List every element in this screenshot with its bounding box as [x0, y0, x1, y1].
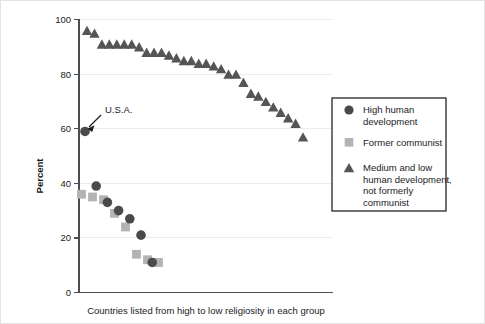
y-tick-label-80: 80 [60, 69, 71, 80]
data-point-triangle [156, 48, 166, 57]
legend: High human development Former communist … [332, 98, 452, 211]
y-axis-title: Percent [34, 158, 45, 194]
legend-item-2-line3: not formerly [363, 185, 413, 196]
data-point-circle [125, 214, 135, 224]
legend-item-1-line1: Former communist [363, 137, 443, 148]
usa-annotation: U.S.A. [88, 104, 133, 132]
data-point-triangle [238, 78, 248, 87]
legend-item-0-line2: development [363, 116, 418, 127]
data-markers [77, 26, 308, 268]
axes [74, 19, 333, 293]
data-point-triangle [261, 97, 271, 106]
data-point-square [121, 223, 130, 232]
figure-container: 100 80 60 40 20 0 Percent Countries list… [0, 0, 485, 324]
gridlines [79, 20, 333, 238]
data-point-triangle [127, 39, 137, 48]
data-point-triangle [82, 26, 92, 35]
data-point-triangle [201, 58, 211, 67]
y-tick-label-100: 100 [55, 14, 71, 25]
data-point-triangle [290, 119, 300, 128]
data-point-circle [103, 198, 113, 208]
legend-circle-marker [344, 105, 353, 114]
religiosity-scatter-chart: 100 80 60 40 20 0 Percent Countries list… [1, 1, 485, 324]
data-point-circle [91, 181, 101, 191]
legend-item-2-line2: human development, [363, 174, 452, 185]
data-point-triangle [283, 113, 293, 122]
data-point-triangle [246, 89, 256, 98]
usa-annotation-label: U.S.A. [105, 104, 132, 115]
legend-item-2-line4: communist [363, 197, 409, 208]
legend-item-0-line1: High human [363, 104, 414, 115]
y-tick-labels: 100 80 60 40 20 0 [55, 14, 71, 298]
data-point-square [77, 190, 86, 199]
legend-item-2-line1: Medium and low [363, 162, 432, 173]
y-tick-label-20: 20 [60, 232, 71, 243]
y-tick-label-0: 0 [66, 287, 71, 298]
data-point-triangle [268, 102, 278, 111]
x-axis-caption: Countries listed from high to low religi… [87, 305, 325, 316]
data-point-square [88, 193, 97, 202]
usa-annotation-arrow [89, 115, 101, 127]
data-point-triangle [186, 56, 196, 65]
data-point-triangle [298, 132, 308, 141]
data-point-triangle [276, 108, 286, 117]
data-point-circle [114, 206, 124, 216]
data-point-square [132, 250, 141, 259]
data-point-circle [80, 127, 90, 137]
data-point-circle [147, 258, 157, 268]
y-tick-label-40: 40 [60, 178, 71, 189]
data-point-circle [136, 230, 146, 240]
legend-square-marker [345, 138, 354, 147]
y-tick-label-60: 60 [60, 123, 71, 134]
